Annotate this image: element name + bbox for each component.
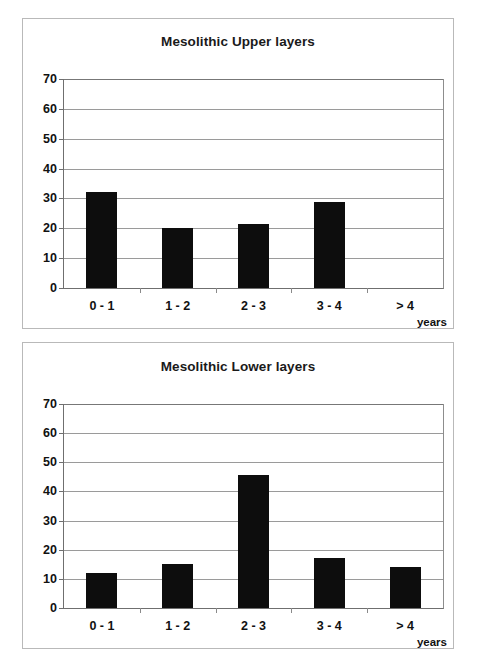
chart-title-lower: Mesolithic Lower layers	[23, 359, 453, 374]
y-axis-tick-mark-upper-70	[59, 79, 64, 80]
y-axis-tick-mark-lower-0	[59, 608, 64, 609]
gridline-upper-70	[64, 79, 443, 80]
y-axis-label-lower-70: 70	[43, 397, 57, 411]
y-axis-tick-mark-upper-30	[59, 198, 64, 199]
x-axis-tick-mark-upper-1	[140, 288, 141, 293]
y-axis-label-upper-30: 30	[43, 191, 57, 205]
chart-title-upper: Mesolithic Upper layers	[23, 34, 453, 49]
x-axis-label-lower-0: 0 - 1	[89, 619, 114, 633]
x-axis-tick-mark-lower-4	[367, 608, 368, 613]
y-axis-label-lower-50: 50	[43, 455, 57, 469]
x-axis-tick-mark-upper-4	[367, 288, 368, 293]
bar-lower-3	[314, 558, 345, 608]
x-axis-unit-label-lower: years	[417, 636, 447, 648]
x-axis-label-lower-3: 3 - 4	[317, 619, 342, 633]
x-axis-tick-mark-upper-3	[291, 288, 292, 293]
plot-area-lower: 0102030405060700 - 11 - 22 - 33 - 4> 4ye…	[63, 404, 444, 609]
y-axis-label-lower-10: 10	[43, 572, 57, 586]
x-axis-tick-mark-lower-3	[291, 608, 292, 613]
y-axis-tick-mark-upper-60	[59, 109, 64, 110]
x-axis-label-upper-3: 3 - 4	[317, 299, 342, 313]
bar-lower-0	[86, 573, 117, 608]
y-axis-label-lower-40: 40	[43, 484, 57, 498]
gridline-lower-60	[64, 433, 443, 434]
y-axis-tick-mark-upper-10	[59, 258, 64, 259]
y-axis-label-lower-0: 0	[50, 601, 57, 615]
x-axis-unit-label-upper: years	[417, 316, 447, 328]
bar-lower-4	[390, 567, 421, 608]
y-axis-tick-mark-lower-40	[59, 491, 64, 492]
y-axis-label-upper-50: 50	[43, 132, 57, 146]
y-axis-tick-mark-lower-60	[59, 433, 64, 434]
y-axis-label-lower-20: 20	[43, 543, 57, 557]
y-axis-tick-mark-upper-40	[59, 169, 64, 170]
y-axis-label-upper-40: 40	[43, 162, 57, 176]
y-axis-label-upper-10: 10	[43, 251, 57, 265]
y-axis-tick-mark-lower-20	[59, 550, 64, 551]
x-axis-tick-mark-lower-1	[140, 608, 141, 613]
x-axis-tick-mark-upper-2	[216, 288, 217, 293]
y-axis-label-upper-0: 0	[50, 281, 57, 295]
bar-upper-1	[162, 228, 193, 288]
y-axis-label-lower-60: 60	[43, 426, 57, 440]
y-axis-tick-mark-lower-70	[59, 404, 64, 405]
x-axis-label-upper-0: 0 - 1	[89, 299, 114, 313]
y-axis-tick-mark-lower-50	[59, 462, 64, 463]
x-axis-label-lower-1: 1 - 2	[165, 619, 190, 633]
x-axis-label-upper-4: > 4	[396, 299, 414, 313]
gridline-upper-60	[64, 109, 443, 110]
y-axis-tick-mark-upper-50	[59, 139, 64, 140]
gridline-upper-50	[64, 139, 443, 140]
x-axis-label-upper-2: 2 - 3	[241, 299, 266, 313]
y-axis-label-upper-60: 60	[43, 102, 57, 116]
gridline-lower-70	[64, 404, 443, 405]
bar-upper-0	[86, 192, 117, 288]
y-axis-label-upper-70: 70	[43, 72, 57, 86]
gridline-lower-50	[64, 462, 443, 463]
y-axis-tick-mark-upper-0	[59, 288, 64, 289]
bar-upper-3	[314, 202, 345, 288]
chart-card-mesolithic-lower-layers: Mesolithic Lower layers 0102030405060700…	[22, 342, 454, 649]
plot-area-upper: 0102030405060700 - 11 - 22 - 33 - 4> 4ye…	[63, 79, 444, 289]
x-axis-label-lower-4: > 4	[396, 619, 414, 633]
y-axis-tick-mark-lower-30	[59, 521, 64, 522]
y-axis-label-lower-30: 30	[43, 514, 57, 528]
bar-lower-1	[162, 564, 193, 608]
bar-upper-2	[238, 224, 269, 288]
y-axis-tick-mark-upper-20	[59, 228, 64, 229]
x-axis-tick-mark-lower-2	[216, 608, 217, 613]
bar-lower-2	[238, 475, 269, 608]
x-axis-label-lower-2: 2 - 3	[241, 619, 266, 633]
y-axis-tick-mark-lower-10	[59, 579, 64, 580]
y-axis-label-upper-20: 20	[43, 221, 57, 235]
chart-card-mesolithic-upper-layers: Mesolithic Upper layers 0102030405060700…	[22, 18, 454, 329]
gridline-upper-40	[64, 169, 443, 170]
x-axis-label-upper-1: 1 - 2	[165, 299, 190, 313]
gridline-upper-30	[64, 198, 443, 199]
